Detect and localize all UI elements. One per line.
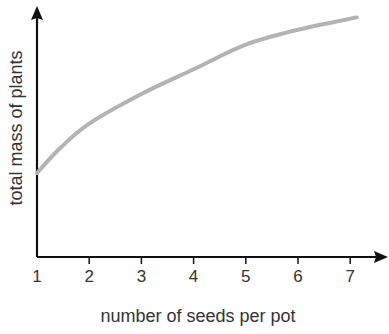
data-curve — [37, 17, 357, 173]
y-axis-title: total mass of plants — [6, 50, 26, 205]
x-tick-label: 6 — [293, 267, 302, 286]
x-tick-label: 2 — [84, 267, 93, 286]
x-axis-title: number of seeds per pot — [100, 306, 295, 326]
x-tick-labels: 1234567 — [32, 267, 355, 286]
x-tick-label: 1 — [32, 267, 41, 286]
x-axis-arrow-icon — [374, 251, 388, 263]
y-axis-arrow-icon — [31, 6, 43, 20]
x-tick-label: 4 — [189, 267, 198, 286]
chart: 1234567 number of seeds per pot total ma… — [0, 0, 389, 334]
x-tick-label: 3 — [137, 267, 146, 286]
x-tick-label: 5 — [241, 267, 250, 286]
x-tick-label: 7 — [345, 267, 354, 286]
